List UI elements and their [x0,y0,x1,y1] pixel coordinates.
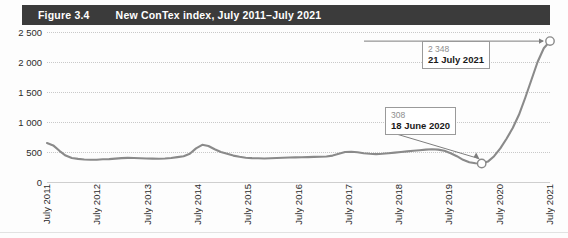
y-axis-labels: 05001 0001 5002 0002 500 [0,32,42,182]
annotation-trough-value: 308 [391,110,450,120]
figure-number: Figure 3.4 [38,9,90,21]
x-axis-labels: July 2011July 2012July 2013July 2014July… [47,184,550,238]
figure-container: Figure 3.4 New ConTex index, July 2011–J… [0,0,568,238]
x-tick-label-july-2013: July 2013 [142,184,153,225]
x-tick-label-july-2015: July 2015 [242,184,253,225]
figure-bottom-rule [0,232,568,233]
annotation-callout-trough: 308 18 June 2020 [385,107,456,135]
y-tick-label-2000: 2 000 [18,57,42,68]
axis-baseline [47,182,550,183]
y-tick-label-500: 500 [26,147,42,158]
x-tick-label-july-2021: July 2021 [544,184,555,225]
annotation-peak-value: 2 348 [428,44,484,54]
annotation-trough-date: 18 June 2020 [391,120,450,131]
annotation-peak-date: 21 July 2021 [428,54,484,65]
x-tick-label-july-2018: July 2018 [393,184,404,225]
x-tick-label-july-2020: July 2020 [494,184,505,225]
y-tick-label-1000: 1 000 [18,117,42,128]
x-tick-label-july-2014: July 2014 [192,184,203,225]
x-tick-label-july-2012: July 2012 [91,184,102,225]
data-marker-trough [477,159,485,167]
data-marker-peak [546,37,554,45]
y-tick-label-2500: 2 500 [18,27,42,38]
x-tick-label-july-2017: July 2017 [343,184,354,225]
figure-header-bar: Figure 3.4 New ConTex index, July 2011–J… [22,5,550,25]
x-tick-label-july-2011: July 2011 [41,184,52,224]
x-tick-label-july-2019: July 2019 [443,184,454,225]
leader-line-trough [393,133,480,160]
figure-title: New ConTex index, July 2011–July 2021 [116,9,322,21]
annotation-callout-peak: 2 348 21 July 2021 [422,41,490,69]
y-tick-label-1500: 1 500 [18,87,42,98]
x-tick-label-july-2016: July 2016 [293,184,304,225]
